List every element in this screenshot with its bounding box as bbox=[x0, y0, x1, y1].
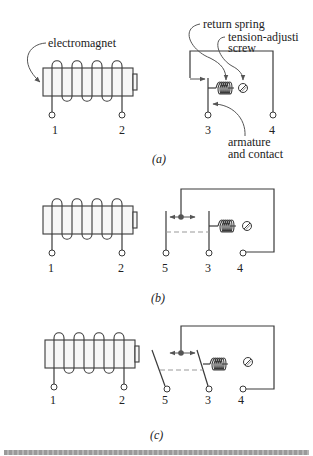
terminal-5-c: 5 bbox=[162, 393, 168, 407]
terminal-5-b: 5 bbox=[162, 261, 168, 275]
terminal-3-b: 3 bbox=[205, 261, 211, 275]
terminal-3-c: 3 bbox=[205, 393, 211, 407]
terminal-1-b: 1 bbox=[48, 261, 54, 275]
caption-c: (c) bbox=[150, 428, 163, 442]
panel-c: 1 2 5 3 4 (c) bbox=[45, 326, 274, 442]
panel-b: 1 2 5 3 4 (b) bbox=[43, 189, 274, 305]
label-tension-screw-2: screw bbox=[228, 41, 256, 55]
bottom-divider-bar bbox=[4, 450, 309, 455]
label-return-spring: return spring bbox=[203, 17, 265, 31]
contact-assembly-b bbox=[163, 189, 274, 256]
contact-assembly-a bbox=[190, 51, 276, 118]
electromagnet-b bbox=[43, 199, 137, 256]
terminal-2-b: 2 bbox=[118, 261, 124, 275]
terminal-3-a: 3 bbox=[205, 123, 211, 137]
electromagnet-c bbox=[45, 333, 139, 390]
panel-a: electromagnet 1 2 3 4 return spring tens… bbox=[27, 17, 299, 166]
terminal-4-c: 4 bbox=[238, 393, 244, 407]
caption-a: (a) bbox=[152, 152, 166, 166]
contact-assembly-c bbox=[152, 326, 274, 392]
label-electromagnet: electromagnet bbox=[48, 36, 117, 50]
electromagnet-a bbox=[43, 61, 137, 118]
terminal-2-c: 2 bbox=[119, 393, 125, 407]
caption-b: (b) bbox=[151, 291, 165, 305]
terminal-2-a: 2 bbox=[119, 123, 125, 137]
terminal-1-c: 1 bbox=[50, 393, 56, 407]
label-armature-2: and contact bbox=[228, 147, 284, 161]
terminal-4-b: 4 bbox=[237, 261, 243, 275]
terminal-1-a: 1 bbox=[52, 123, 58, 137]
